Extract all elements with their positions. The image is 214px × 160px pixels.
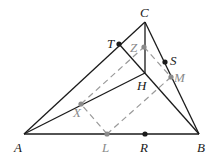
- label-T: T: [107, 36, 115, 51]
- label-B: B: [197, 140, 205, 155]
- point-S: [162, 59, 167, 64]
- label-H: H: [136, 78, 147, 93]
- label-M: M: [173, 70, 186, 85]
- label-L: L: [101, 140, 109, 155]
- segment-AH: [24, 73, 145, 134]
- label-A: A: [13, 140, 22, 155]
- point-L: [104, 131, 109, 136]
- label-Z: Z: [130, 40, 138, 55]
- point-M: [168, 74, 173, 79]
- point-Z: [141, 44, 146, 49]
- point-T: [116, 41, 121, 46]
- label-R: R: [139, 140, 148, 155]
- label-S: S: [170, 53, 177, 68]
- dashed-segment-XZ: [81, 47, 144, 104]
- geometry-figure: ABCHTSRZMXL: [0, 0, 214, 160]
- segment-CA: [24, 22, 145, 134]
- label-C: C: [140, 5, 149, 20]
- point-R: [142, 131, 147, 136]
- dashed-segment-LX: [81, 104, 107, 134]
- dashed-segments: [81, 47, 171, 134]
- segment-TB: [119, 44, 199, 134]
- label-X: X: [72, 105, 82, 120]
